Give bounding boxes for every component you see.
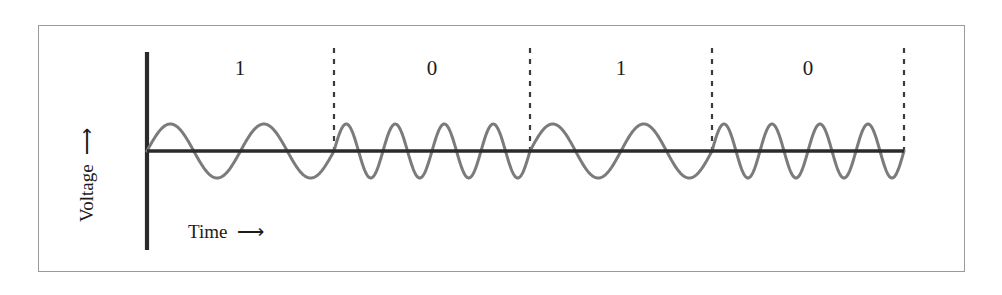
bit-label: 1: [235, 58, 246, 79]
waveform-plot: [0, 0, 1002, 295]
y-axis-label-text: Voltage: [76, 164, 97, 222]
arrow-up-icon: ⟶: [76, 128, 97, 160]
arrow-right-icon: ⟶: [232, 221, 264, 242]
bit-label: 0: [427, 58, 438, 79]
x-axis-label: Time ⟶: [188, 222, 264, 241]
fsk-waveform-figure: 1010 Voltage ⟶ Time ⟶: [0, 0, 1002, 295]
y-axis-label: Voltage ⟶: [77, 128, 96, 222]
bit-label: 1: [616, 58, 627, 79]
x-axis-label-text: Time: [188, 221, 227, 242]
bit-label: 0: [803, 58, 814, 79]
